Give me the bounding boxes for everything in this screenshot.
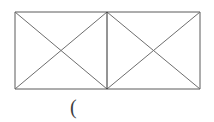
geometric-figure	[0, 0, 214, 122]
figure-page: { "figure": { "title": "rectangle-divide…	[0, 0, 214, 122]
